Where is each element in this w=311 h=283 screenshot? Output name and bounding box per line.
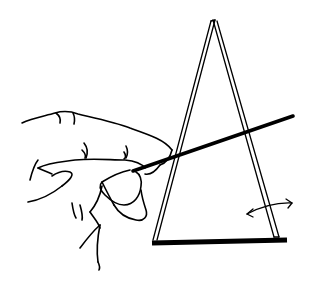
drawing-canvas	[0, 0, 311, 283]
illustration: Line drawing of a hand holding a thin st…	[0, 0, 311, 283]
base-bar	[152, 240, 287, 243]
thin-stick	[133, 116, 293, 171]
hand-gripping-stick	[22, 112, 172, 270]
a-frame-triangle	[153, 20, 279, 240]
